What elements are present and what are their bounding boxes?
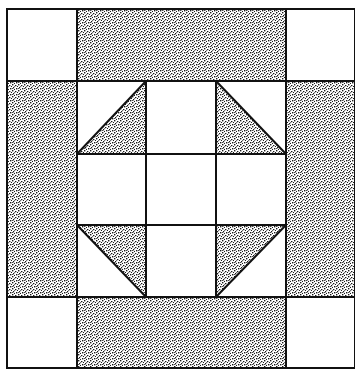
corner-square-top-right	[286, 9, 355, 81]
quilt-block	[0, 0, 355, 380]
border-bar-right	[286, 81, 355, 297]
corner-square-top-left	[7, 9, 77, 81]
border-bar-bottom	[77, 297, 286, 368]
border-bar-top	[77, 9, 286, 81]
center-area	[77, 81, 286, 297]
border-bar-left	[7, 81, 77, 297]
corner-square-bottom-right	[286, 297, 355, 368]
corner-square-bottom-left	[7, 297, 77, 368]
